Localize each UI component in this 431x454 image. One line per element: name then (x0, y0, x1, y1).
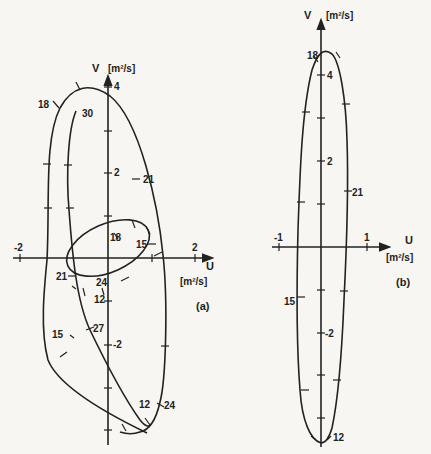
v-axis-label-b: V (304, 9, 312, 21)
point-label-12-inner: 12 (139, 399, 151, 410)
v-axis-label-a: V (92, 62, 100, 74)
v-unit-label-b: [m²/s] (326, 10, 353, 21)
inner-hodograph-curve (68, 111, 151, 426)
tick-y-2-b: 2 (327, 156, 333, 167)
point-label-24-outer: 24 (164, 400, 176, 411)
tick-y-neg2-a: -2 (113, 339, 122, 350)
tick-y-4-a: 4 (114, 81, 120, 92)
panel-a-labels: V [m²/s] U [m²/s] (a) -2 2 4 2 -2 18 30 … (14, 62, 214, 411)
point-label-15-ellipse: 15 (136, 239, 148, 250)
point-label-30: 30 (82, 108, 94, 119)
u-unit-label-a: [m²/s] (180, 276, 207, 287)
panel-label-a: (a) (196, 300, 210, 312)
u-axis-label-b: U (405, 234, 413, 246)
hodograph-figure: V [m²/s] U [m²/s] (a) -2 2 4 2 -2 18 30 … (0, 0, 431, 454)
u-axis-label-a: U (206, 260, 214, 272)
tick-y-2-a: 2 (114, 167, 120, 178)
tick-y-neg2-b: -2 (325, 328, 334, 339)
tick-y-4-b: 4 (327, 70, 333, 81)
point-label-12-ellipse: 12 (94, 294, 106, 305)
tick-x-2-a: 2 (192, 242, 198, 253)
point-label-27: 27 (93, 323, 105, 334)
tick-x-1-b: 1 (364, 232, 370, 243)
point-label-18-ellipse: 18 (110, 232, 122, 243)
point-label-21-b: 21 (352, 187, 364, 198)
point-label-12-b: 12 (333, 432, 345, 443)
outer-hodograph-curve (43, 88, 166, 434)
point-label-15-outer: 15 (52, 329, 64, 340)
panel-a (13, 80, 208, 445)
panel-b-labels: V [m²/s] U [m²/s] (b) -1 1 4 2 -2 18 21 … (274, 9, 413, 443)
tick-x-neg1-b: -1 (274, 232, 283, 243)
point-label-18-b: 18 (307, 50, 319, 61)
tick-x-neg2-a: -2 (14, 242, 23, 253)
point-label-24-ellipse: 24 (96, 277, 108, 288)
point-label-21-ellipse: 21 (56, 271, 68, 282)
v-unit-label-a: [m²/s] (108, 63, 135, 74)
point-label-18-outer: 18 (38, 99, 50, 110)
panel-label-b: (b) (396, 276, 410, 288)
u-unit-label-b: [m²/s] (386, 252, 413, 263)
point-label-21-outer: 21 (143, 174, 155, 185)
point-label-15-b: 15 (284, 296, 296, 307)
